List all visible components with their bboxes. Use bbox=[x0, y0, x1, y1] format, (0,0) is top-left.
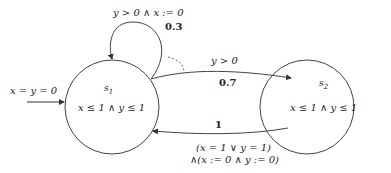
initial-label: x = y = 0 bbox=[10, 85, 57, 97]
state-s1-invariant: x ≤ 1 ∧ y ≤ 1 bbox=[78, 102, 145, 114]
edge-s2-s1-guard-line1: (x = 1 ∨ y = 1) bbox=[196, 142, 271, 154]
edge-s1-s2-probability: 0.7 bbox=[219, 77, 236, 88]
state-s2-invariant: x ≤ 1 ∧ y ≤ 1 bbox=[290, 102, 357, 114]
edge-s1-s2-guard: y > 0 bbox=[211, 55, 238, 67]
self-loop-probability: 0.3 bbox=[165, 21, 182, 32]
edge-s2-s1-probability: 1 bbox=[215, 119, 222, 130]
self-loop-edge bbox=[110, 22, 161, 79]
branch-arc bbox=[168, 57, 184, 72]
self-loop-guard: y > 0 ∧ x := 0 bbox=[113, 7, 184, 19]
state-s1-name: s1 bbox=[104, 83, 113, 96]
state-s2-name: s2 bbox=[319, 78, 328, 91]
edge-s2-s1-guard-line2: ∧(x := 0 ∧ y := 0) bbox=[190, 154, 279, 166]
